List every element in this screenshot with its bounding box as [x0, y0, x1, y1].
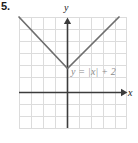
graph-canvas	[0, 0, 138, 143]
x-axis	[19, 89, 128, 96]
equation-annotation: y = |x| + 2	[71, 66, 116, 77]
y-axis-label: y	[64, 3, 68, 13]
figure-screenshot: 5.	[0, 0, 138, 143]
coordinate-graph: y x y = |x| + 2	[0, 0, 138, 143]
y-axis-arrow-icon	[64, 18, 71, 25]
x-axis-label: x	[128, 88, 132, 98]
